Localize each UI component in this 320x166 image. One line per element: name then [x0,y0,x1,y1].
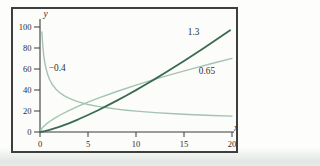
y-tick-label: 80 [23,43,32,53]
y-tick-label: 60 [23,64,32,74]
y-axis-title: y [42,9,48,19]
x-tick-label: 10 [132,139,141,149]
curve-label-power-0.65: 0.65 [199,66,216,76]
y-tick-label: 20 [23,106,32,116]
x-tick-label: 20 [228,139,236,149]
y-tick-label: 0 [27,127,31,137]
y-tick-label: 100 [19,22,32,32]
chart-frame: 020406080100051015200.65−0.41.3yx [11,7,238,153]
curve-label-power-neg-0.4: −0.4 [49,63,66,73]
x-tick-label: 15 [180,139,189,149]
power-functions-chart: 020406080100051015200.65−0.41.3yx [13,9,236,151]
curve-power-1.3 [40,30,230,132]
curve-label-power-1.3: 1.3 [188,27,200,37]
x-axis-title: x [233,123,236,133]
x-tick-label: 0 [38,139,42,149]
y-tick-label: 40 [23,85,32,95]
x-tick-label: 5 [86,139,90,149]
